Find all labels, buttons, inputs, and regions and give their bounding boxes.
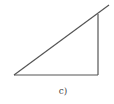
hypotenuse-line — [14, 5, 109, 75]
figure-label: c) — [56, 86, 70, 96]
